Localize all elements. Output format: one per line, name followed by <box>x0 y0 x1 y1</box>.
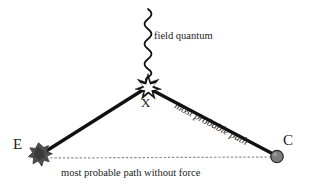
receiver-dot-icon <box>271 150 283 162</box>
vertex-x-label: X <box>141 96 150 109</box>
point-c-label: C <box>283 133 293 148</box>
point-e-label: E <box>13 137 22 152</box>
diagram-vector-layer <box>0 0 310 187</box>
straight-path-e-to-c-dotted <box>46 157 272 158</box>
path-without-force-label: most probable path without force <box>61 168 200 179</box>
field-quantum-wavy-line <box>145 9 152 83</box>
field-quantum-label: field quantum <box>154 31 213 42</box>
path-segment-e-to-x <box>43 88 146 153</box>
emitter-blob-icon <box>28 143 52 166</box>
figure-canvas: field quantum X E C most probable path m… <box>0 0 310 187</box>
